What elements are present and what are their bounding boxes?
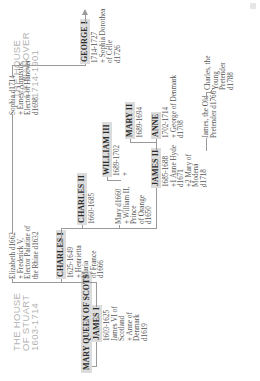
connector-line (206, 93, 207, 99)
connector-line (119, 225, 120, 229)
james-i-info: 1603-1625 James VI of Scotland + Anne of… (104, 306, 150, 341)
info-line: d1718 (201, 145, 209, 187)
house-of-stuart-title: THE HOUSE OF STUART 1603-1714 (12, 293, 39, 351)
connector-line (61, 228, 157, 229)
connector-line (82, 225, 83, 229)
house-title-line: 1603-1714 (30, 293, 39, 351)
connector-line (96, 282, 97, 307)
info-line: d1788 (228, 56, 236, 90)
charles-ii-info: 1660-1685 (89, 193, 97, 224)
connector-line (61, 279, 62, 283)
connector-line (120, 228, 121, 229)
info-line: the Rhine d1632 (33, 226, 41, 280)
connector-line (206, 186, 207, 187)
connector-line (12, 114, 13, 211)
monarch-george-i: GEORGE I (80, 19, 90, 64)
monarch-charles-ii: CHARLES II (77, 173, 87, 225)
info-line: 1689-1694 (137, 107, 145, 138)
info-line: d1726 (115, 9, 123, 63)
james-ii-info: 1685-1688 +1 Anne Hyde d1671 +2 Mary of … (163, 145, 209, 187)
anne-info: 1702-1714 + George of Denmark d1708 (163, 75, 186, 138)
connector-line (130, 142, 157, 143)
connector-line (206, 138, 207, 151)
connector-line (96, 340, 97, 367)
connector-line (211, 90, 212, 93)
info-line: d1619 (142, 306, 150, 341)
connector-line (156, 187, 157, 229)
monarch-william-iii: WILLIAM III (102, 122, 112, 177)
mary-queen-of-scots: MARY QUEEN OF SCOTS (81, 271, 92, 373)
monarch-mary-ii: MARY II (125, 102, 135, 139)
connector-line (156, 143, 157, 151)
connector-line (61, 282, 97, 283)
connector-line (130, 139, 131, 143)
connector-line (12, 211, 13, 234)
family-tree-diagram: THE HOUSE OF HANOVER 1714-1901 THE HOUSE… (0, 0, 260, 381)
charles-young-pretender-info: Charles, the Young Pretender d1788 (205, 56, 235, 90)
page-corner-mark (250, 3, 256, 9)
monarch-james-ii: JAMES II (151, 148, 161, 188)
info-line: + (122, 145, 130, 176)
connector-line (107, 180, 121, 181)
arrow-right-icon (82, 9, 88, 15)
connector-line (85, 64, 86, 66)
connector-line (61, 229, 62, 241)
info-line: d1666 (98, 245, 106, 278)
info-line: d1698 (33, 60, 41, 115)
connector-line (12, 282, 62, 283)
info-line: d1650 (146, 187, 154, 224)
connector-line (12, 65, 13, 76)
connector-line (12, 65, 86, 66)
info-line: 1660-1685 (89, 193, 97, 224)
info-line: d1708 (178, 75, 186, 138)
monarch-james-i: JAMES I (92, 305, 102, 342)
connector-line (156, 139, 157, 143)
charles-i-info: 1625-1649 + Henrietta Maria of France d1… (68, 245, 106, 278)
william-iii-info: 1689-1702 + (114, 145, 129, 176)
elizabeth-info: Elizabeth d1662 + Frederick V, Elector P… (10, 226, 40, 280)
george-i-info: 1714-1727 + Sophia Dorothea of Celle d17… (92, 9, 122, 63)
monarch-anne: ANNE (151, 112, 161, 139)
connector-line (107, 177, 108, 181)
connector-line (12, 279, 13, 283)
mary-d1660-info: Mary d1660 + William II, Prince of Orang… (116, 187, 154, 224)
info-line: Pretender d1766 (211, 91, 219, 138)
mary-ii-info: 1689-1694 (137, 107, 145, 138)
sophia-info: Sophia d1714 + Ernest Augustus, Elector … (10, 60, 40, 115)
